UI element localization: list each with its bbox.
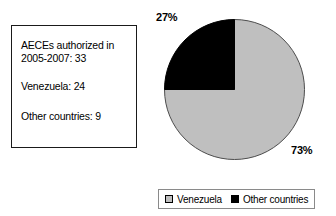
legend-swatch-other-countries [231, 195, 239, 203]
annotation-line-other-text: Other countries: 9 [21, 110, 101, 122]
pie-slice-other-countries [165, 20, 235, 90]
legend-label-venezuela: Venezuela [177, 194, 222, 205]
chart-legend: Venezuela Other countries [158, 189, 315, 209]
pie-chart [164, 19, 305, 160]
annotation-line-total-text: AECEs authorized in 2005-2007: 33 [21, 39, 114, 64]
legend-item-other-countries[interactable]: Other countries [231, 194, 308, 205]
pie-chart-svg [164, 19, 305, 160]
pie-label-venezuela: 73% [291, 144, 312, 156]
legend-swatch-venezuela [165, 195, 173, 203]
annotation-line-venezuela: Venezuela: 24 [21, 80, 85, 93]
figure-canvas: AECEs authorized in 2005-2007: 33 Venezu… [0, 0, 336, 216]
annotation-line-venezuela-text: Venezuela: 24 [21, 80, 85, 92]
annotation-textbox: AECEs authorized in 2005-2007: 33 Venezu… [11, 25, 137, 148]
pie-label-other-countries: 27% [156, 11, 177, 23]
legend-label-other-countries: Other countries [243, 194, 308, 205]
annotation-line-total: AECEs authorized in 2005-2007: 33 [21, 39, 114, 65]
legend-item-venezuela[interactable]: Venezuela [165, 194, 222, 205]
annotation-line-other: Other countries: 9 [21, 110, 101, 123]
